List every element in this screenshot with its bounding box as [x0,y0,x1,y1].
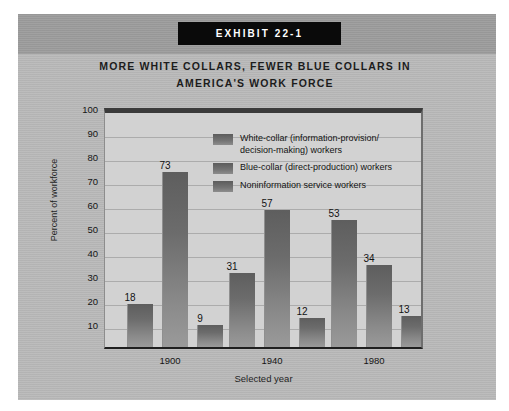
x-tick-1900: 1900 [135,355,205,366]
y-tick-10: 10 [62,320,98,331]
legend-swatch-white-collar [213,134,233,145]
y-tick-100: 100 [62,104,98,115]
bar-value-1980-noninformation: 13 [384,304,424,315]
y-tick-40: 40 [62,248,98,259]
legend-label-white-collar: White-collar (information-provision/ dec… [240,133,379,156]
legend-swatch-blue-collar [213,163,233,174]
bar-value-1900-blue-collar: 73 [145,160,185,171]
bar-value-1980-blue-collar: 34 [349,253,389,264]
bar-1980-noninformation [401,316,421,347]
bar-value-1940-noninformation: 12 [282,306,322,317]
bar-value-1900-white-collar: 18 [110,292,150,303]
chart-title-line-1: MORE WHITE COLLARS, FEWER BLUE COLLARS I… [60,58,450,75]
legend-item-white-collar: White-collar (information-provision/ dec… [213,133,418,156]
bar-value-1980-white-collar: 53 [314,208,354,219]
y-tick-20: 20 [62,296,98,307]
legend-label-white-collar-line-1: White-collar (information-provision/ [240,133,379,143]
x-tick-1980: 1980 [339,355,409,366]
bar-value-1940-blue-collar: 57 [247,198,287,209]
legend-label-blue-collar: Blue-collar (direct-production) workers [240,162,392,174]
y-tick-80: 80 [62,152,98,163]
exhibit-banner: EXHIBIT 22-1 [178,22,341,45]
y-tick-70: 70 [62,176,98,187]
gridline-50 [105,233,421,234]
y-tick-90: 90 [62,128,98,139]
y-axis-title: Percent of workforce [49,140,59,260]
bar-1980-white-collar [331,220,357,347]
bar-1940-blue-collar [264,210,290,347]
y-tick-30: 30 [62,272,98,283]
chart-legend: White-collar (information-provision/ dec… [213,133,418,198]
y-tick-50: 50 [62,224,98,235]
chart-title: MORE WHITE COLLARS, FEWER BLUE COLLARS I… [60,58,450,92]
chart-title-line-2: AMERICA'S WORK FORCE [60,75,450,92]
bar-value-1900-noninformation: 9 [180,313,220,324]
plot-inner: White-collar (information-provision/ dec… [105,113,421,347]
bar-1900-noninformation [197,325,223,347]
x-tick-1940: 1940 [237,355,307,366]
bar-value-1940-white-collar: 31 [212,261,252,272]
legend-item-blue-collar: Blue-collar (direct-production) workers [213,162,418,174]
gridline-60 [105,209,421,210]
y-tick-60: 60 [62,200,98,211]
screenshot-root: EXHIBIT 22-1 MORE WHITE COLLARS, FEWER B… [0,0,509,411]
legend-label-noninformation: Noninformation service workers [240,180,366,192]
plot-area: White-collar (information-provision/ dec… [104,108,423,349]
legend-label-white-collar-line-2: decision-making) workers [240,145,342,155]
legend-swatch-noninformation [213,181,233,192]
bar-1940-white-collar [229,273,255,347]
x-axis-title: Selected year [104,373,423,384]
legend-item-noninformation: Noninformation service workers [213,180,418,192]
bar-1900-white-collar [127,304,153,347]
bar-1940-noninformation [299,318,325,347]
